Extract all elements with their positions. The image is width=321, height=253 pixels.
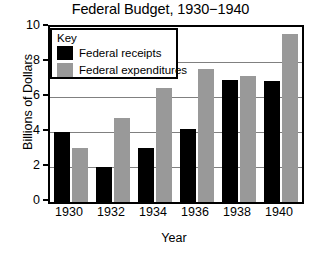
legend-label-expenditures: Federal expenditures <box>79 63 187 77</box>
bar-1938-expenditures <box>240 76 256 202</box>
y-tick-label-0: 0 <box>0 194 40 206</box>
bar-1930-expenditures <box>72 148 88 202</box>
x-tick-label-1940: 1940 <box>249 205 309 219</box>
y-tick-label-6: 6 <box>0 89 40 101</box>
bar-1936-receipts <box>180 129 196 203</box>
bar-1936-expenditures <box>198 69 214 202</box>
bar-1940-expenditures <box>282 34 298 202</box>
legend-box: Key Federal receipts Federal expenditure… <box>50 28 178 79</box>
bar-1938-receipts <box>222 80 238 203</box>
y-tick-label-4: 4 <box>0 124 40 136</box>
y-tick-label-2: 2 <box>0 159 40 171</box>
y-tick-label-8: 8 <box>0 54 40 66</box>
x-axis-title: Year <box>48 231 300 245</box>
legend-swatch-receipts <box>57 46 73 60</box>
legend-swatch-expenditures <box>57 63 73 77</box>
legend-label-receipts: Federal receipts <box>79 46 161 60</box>
legend-title: Key <box>57 32 77 45</box>
bar-1932-expenditures <box>114 118 130 202</box>
y-tick-label-10: 10 <box>0 19 40 31</box>
bar-1940-receipts <box>264 81 280 202</box>
bar-chart: Federal Budget, 1930−1940 Billions of Do… <box>0 0 321 253</box>
bar-1930-receipts <box>54 132 70 202</box>
chart-title: Federal Budget, 1930−1940 <box>0 0 321 19</box>
bar-1934-expenditures <box>156 88 172 202</box>
bar-1932-receipts <box>96 167 112 202</box>
bar-1934-receipts <box>138 148 154 202</box>
